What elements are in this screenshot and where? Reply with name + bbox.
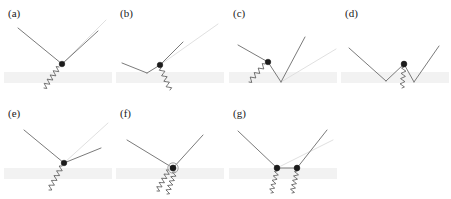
diagram-svg [0, 0, 451, 199]
vertex-dot-b-0 [157, 62, 163, 68]
vertex-dot-d-0 [401, 61, 407, 67]
trajectory-line-g-0 [238, 131, 277, 168]
vertex-dot-c-0 [265, 59, 271, 65]
panel-label-c: (c) [233, 8, 245, 19]
panel-label-b: (b) [120, 8, 133, 19]
figure-canvas: (a)(b)(c)(d)(e)(f)(g) [0, 0, 451, 199]
panel-d [341, 46, 449, 88]
vertex-dot-g-1 [294, 165, 300, 171]
vertex-dot-g-0 [274, 165, 280, 171]
panel-e [4, 123, 112, 190]
trajectory-line-f-1 [173, 135, 203, 168]
vertex-dot-e-0 [61, 160, 67, 166]
panel-label-g: (g) [233, 108, 246, 119]
panel-label-e: (e) [8, 108, 20, 119]
trajectory-line-b-0 [122, 63, 147, 73]
panel-f [116, 135, 224, 194]
faint-line-b-0 [160, 24, 218, 65]
panel-a [4, 20, 112, 88]
trajectory-line-a-1 [62, 31, 98, 64]
panel-g [229, 130, 337, 193]
trajectory-line-b-2 [160, 42, 183, 65]
trajectory-line-c-0 [238, 45, 268, 62]
surface-band-f [116, 168, 224, 179]
panel-label-a: (a) [8, 8, 20, 19]
surface-band-g [229, 168, 337, 179]
trajectory-line-g-2 [297, 130, 327, 168]
panel-c [229, 37, 337, 83]
faint-line-e-0 [64, 123, 108, 163]
trajectory-line-f-0 [127, 140, 173, 168]
trajectory-line-a-0 [18, 28, 62, 64]
panel-label-f: (f) [120, 108, 131, 119]
vertex-dot-a-0 [59, 61, 65, 67]
faint-line-g-0 [277, 140, 333, 168]
panel-b [116, 24, 224, 90]
trajectory-line-e-1 [64, 148, 101, 163]
panel-label-d: (d) [345, 8, 358, 19]
vertex-dot-f-0 [170, 165, 176, 171]
surface-band-a [4, 72, 112, 83]
trajectory-line-e-0 [24, 130, 64, 163]
surface-band-b [116, 72, 224, 83]
surface-band-d [341, 72, 449, 83]
